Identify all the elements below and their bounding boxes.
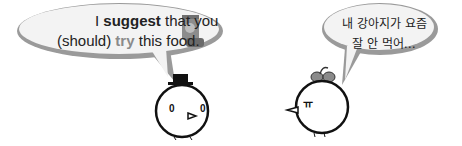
svg-text:ㅠ: ㅠ [303,98,313,111]
right-bubble-line-1: 내 강아지가 요즘 [342,14,427,31]
right-character: ㅠ [287,68,348,137]
text-bold-suggest: suggest [103,12,161,29]
illustration: 0 0 ㅠ I suggest that you (should) try th… [0,0,462,146]
text-post: this food. [135,32,200,49]
svg-text:0: 0 [200,103,206,114]
left-bubble-line-1: I suggest that you [95,12,199,29]
text-gray-try: try [115,32,134,49]
right-bubble-line-2: 잘 안 먹어… [352,34,416,51]
left-bubble-line-2: (should) try this food. [57,32,199,49]
svg-text:0: 0 [169,103,175,114]
left-character: 0 0 [156,74,208,140]
text-pre: (should) [57,32,115,49]
text-post: that you [161,12,219,29]
